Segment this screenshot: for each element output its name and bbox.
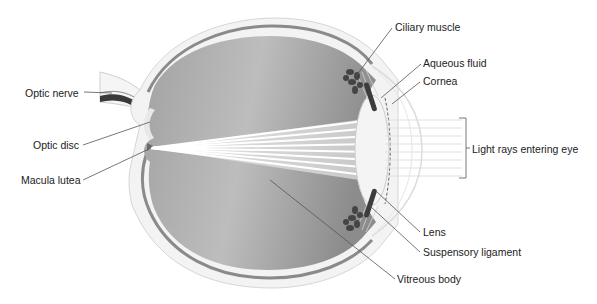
lens (355, 95, 389, 205)
label-optic-nerve: Optic nerve (25, 87, 79, 99)
label-light-rays: Light rays entering eye (472, 143, 578, 155)
label-macula-lutea: Macula lutea (21, 174, 81, 186)
label-ciliary-muscle: Ciliary muscle (395, 21, 460, 33)
light-rays-bracket (459, 118, 470, 178)
label-vitreous-body: Vitreous body (397, 273, 461, 285)
label-suspensory-ligament: Suspensory ligament (423, 246, 521, 258)
label-cornea: Cornea (423, 75, 457, 87)
label-optic-disc: Optic disc (33, 139, 79, 151)
label-lens: Lens (423, 226, 446, 238)
label-aqueous-fluid: Aqueous fluid (423, 57, 487, 69)
